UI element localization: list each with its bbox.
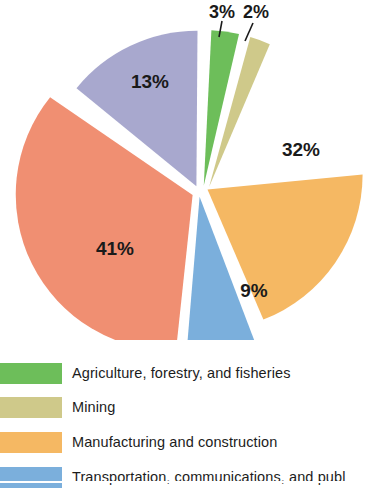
- chart-legend: Agriculture, forestry, and fisheries Min…: [0, 357, 367, 483]
- legend-swatch-transportation: [0, 467, 62, 488]
- legend-item-mining[interactable]: Mining: [0, 397, 367, 419]
- slice-label-agriculture: 3%: [209, 2, 235, 23]
- legend-label-mining: Mining: [72, 397, 115, 418]
- legend-item-manufacturing[interactable]: Manufacturing and construction: [0, 432, 367, 454]
- slice-label-government: 13%: [131, 71, 169, 93]
- pie-chart-plot-area: 3% 2% 32% 9% 41% 13%: [0, 0, 367, 340]
- legend-item-agriculture[interactable]: Agriculture, forestry, and fisheries: [0, 363, 367, 385]
- slice-label-services: 41%: [96, 238, 134, 260]
- slice-label-mining: 2%: [243, 2, 269, 23]
- pie-chart-svg: [0, 0, 367, 340]
- legend-label-transportation: Transportation, communications, and publ: [72, 467, 345, 488]
- slice-label-transportation: 9%: [240, 280, 267, 302]
- slice-label-manufacturing: 32%: [282, 139, 320, 161]
- legend-swatch-manufacturing: [0, 432, 62, 453]
- legend-label-manufacturing: Manufacturing and construction: [72, 432, 277, 453]
- legend-swatch-mining: [0, 397, 62, 418]
- page-bottom-crop-edge: [0, 481, 367, 483]
- legend-swatch-agriculture: [0, 363, 62, 384]
- legend-item-transportation[interactable]: Transportation, communications, and publ: [0, 467, 367, 489]
- legend-label-agriculture: Agriculture, forestry, and fisheries: [72, 363, 291, 384]
